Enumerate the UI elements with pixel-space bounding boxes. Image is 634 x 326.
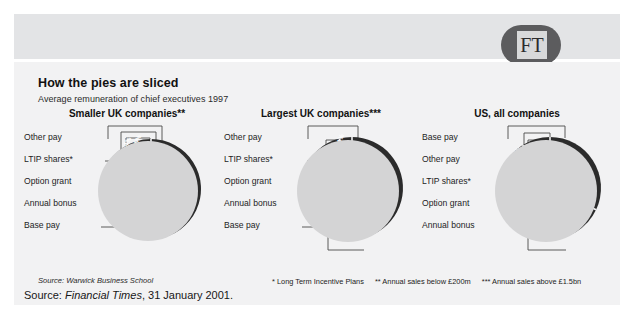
ft-logo: FT [501,25,561,65]
legend-label-2-other-pay: Other pay [422,154,460,164]
caption-publication: Financial Times [65,289,142,301]
footnote-largest: *** Annual sales above £1.5bn [482,277,581,286]
chart-panel-smaller-uk: Smaller UK companies** Other pay LTIP sh… [14,108,228,273]
legend-label-1-base-pay: Base pay [224,220,260,230]
caption-prefix: Source: [24,289,65,301]
top-banner: FT [14,14,620,59]
footnote-smaller: ** Annual sales below £200m [375,277,471,286]
footnote-ltip: * Long Term Incentive Plans [272,277,364,286]
pie-chart-0: 64% 17% 10% 4% 5% [100,136,204,244]
chart-footnotes: * Long Term Incentive Plans ** Annual sa… [272,277,590,286]
ft-logo-text: FT [520,35,543,55]
caption-source: Source: Financial Times, 31 January 2001… [24,289,233,301]
legend-label-2-base-pay: Base pay [422,132,458,142]
chart-title-1: Largest UK companies*** [218,108,424,119]
chart-panel-us-all: US, all companies Base pay Other pay LTI… [414,108,620,273]
chart-title-2: US, all companies [414,108,620,119]
chart-panel-largest-uk: Largest UK companies*** Other pay LTIP s… [218,108,424,273]
figure-page: FT How the pies are sliced Average remun… [0,0,634,326]
figure-subhead: Average remuneration of chief executives… [38,94,228,104]
legend-label-1-other-pay: Other pay [224,132,262,142]
pie-chart-2: 32% 19% 36% 9% 4% [498,134,604,246]
figure-headline: How the pies are sliced [38,76,179,90]
ft-logo-square: FT [517,31,547,59]
legend-label-0-base-pay: Base pay [24,220,60,230]
caption-suffix: , 31 January 2001. [142,289,233,301]
chart-source-note: Source: Warwick Business School [38,276,153,285]
chart-title-0: Smaller UK companies** [20,108,234,119]
legend-label-0-other-pay: Other pay [24,132,62,142]
pie-chart-1: 55% 16% 10% 15% 4% [300,134,406,246]
chart-figure: How the pies are sliced Average remunera… [14,62,620,305]
